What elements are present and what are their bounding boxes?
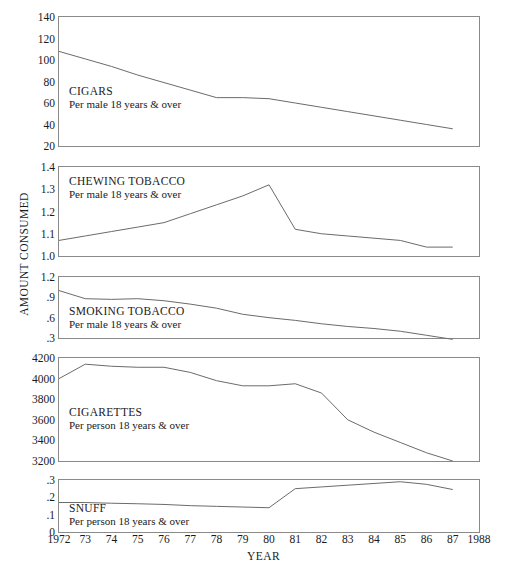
panel-chewing-tobacco: 1.01.11.21.31.4CHEWING TOBACCOPer male 1… <box>58 166 480 257</box>
panel-snuff: 0.1.2.3SNUFFPer person 18 years & over <box>58 479 480 533</box>
y-tick-cigars: 120 <box>38 33 55 45</box>
x-tick-81: 81 <box>290 533 302 545</box>
y-tick-chewing-tobacco: 1.4 <box>41 161 55 173</box>
tobacco-consumption-figure: AMOUNT CONSUMED 20406080100120140CIGARSP… <box>0 0 527 576</box>
x-axis-title: YEAR <box>0 550 527 562</box>
x-axis-ticks: 19727374757677787980818283848586871988 <box>58 533 480 549</box>
x-tick-77: 77 <box>185 533 197 545</box>
x-tick-73: 73 <box>80 533 92 545</box>
y-tick-cigarettes: 3400 <box>32 434 55 446</box>
y-tick-smoking-tobacco: .9 <box>46 291 55 303</box>
x-tick-82: 82 <box>316 533 328 545</box>
x-tick-78: 78 <box>211 533 223 545</box>
y-tick-snuff: .1 <box>46 509 55 521</box>
panel-cigars: 20406080100120140CIGARSPer male 18 years… <box>58 16 480 147</box>
y-axis-title: AMOUNT CONSUMED <box>18 174 30 334</box>
series-chewing-tobacco <box>59 167 479 256</box>
y-tick-smoking-tobacco: .6 <box>46 312 55 324</box>
y-tick-cigarettes: 3200 <box>32 455 55 467</box>
x-tick-85: 85 <box>395 533 407 545</box>
y-tick-snuff: .3 <box>46 474 55 486</box>
y-tick-chewing-tobacco: 1.3 <box>41 183 55 195</box>
x-tick-1988: 1988 <box>468 533 491 545</box>
series-smoking-tobacco <box>59 277 479 338</box>
panel-cigarettes: 320034003600380040004200CIGARETTESPer pe… <box>58 357 480 462</box>
y-tick-cigars: 60 <box>44 97 56 109</box>
y-tick-cigarettes: 3600 <box>32 414 55 426</box>
y-tick-cigarettes: 4200 <box>32 352 55 364</box>
y-tick-smoking-tobacco: 1.2 <box>41 271 55 283</box>
y-tick-chewing-tobacco: 1.1 <box>41 228 55 240</box>
x-tick-75: 75 <box>132 533 144 545</box>
y-tick-cigars: 80 <box>44 76 56 88</box>
x-tick-79: 79 <box>237 533 249 545</box>
series-cigarettes <box>59 358 479 461</box>
y-tick-chewing-tobacco: 1.0 <box>41 250 55 262</box>
y-tick-cigarettes: 3800 <box>32 393 55 405</box>
x-tick-87: 87 <box>447 533 459 545</box>
panel-smoking-tobacco: .3.6.91.2SMOKING TOBACCOPer male 18 year… <box>58 276 480 339</box>
y-tick-cigars: 140 <box>38 11 55 23</box>
x-tick-84: 84 <box>368 533 380 545</box>
x-tick-86: 86 <box>421 533 433 545</box>
y-tick-snuff: .2 <box>46 491 55 503</box>
x-tick-83: 83 <box>342 533 354 545</box>
y-tick-chewing-tobacco: 1.2 <box>41 206 55 218</box>
x-tick-1972: 1972 <box>48 533 71 545</box>
x-tick-74: 74 <box>106 533 118 545</box>
y-tick-cigarettes: 4000 <box>32 373 55 385</box>
series-snuff <box>59 480 479 532</box>
y-tick-cigars: 20 <box>44 140 56 152</box>
y-tick-smoking-tobacco: .3 <box>46 332 55 344</box>
series-cigars <box>59 17 479 146</box>
x-tick-80: 80 <box>263 533 275 545</box>
y-tick-cigars: 40 <box>44 119 56 131</box>
y-tick-cigars: 100 <box>38 54 55 66</box>
x-tick-76: 76 <box>158 533 170 545</box>
